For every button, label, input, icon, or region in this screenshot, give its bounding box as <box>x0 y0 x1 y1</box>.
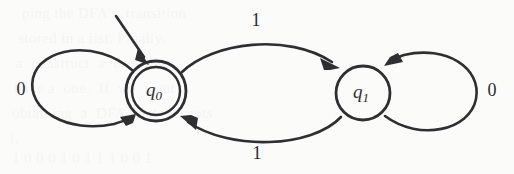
transition-q0-to-q1: 1 <box>182 10 340 72</box>
state-q0-label: q0 <box>146 79 163 103</box>
q1-to-q0-arrowhead <box>180 115 198 130</box>
transition-q1-self-loop: 0 <box>384 53 497 131</box>
q1-to-q0-path <box>188 117 341 142</box>
q0-self-loop-path <box>32 50 133 126</box>
transition-q0-self-loop: 0 <box>17 50 137 126</box>
state-q1-label-sub: 1 <box>363 90 370 105</box>
edge-label-q0-to-q1: 1 <box>252 10 261 30</box>
q0-to-q1-path <box>182 44 332 72</box>
q1-self-loop-path <box>385 53 477 131</box>
automaton-diagram: ping the DFA's transition stored in a li… <box>0 0 514 174</box>
edge-label-q1-self-loop: 0 <box>488 80 497 100</box>
start-arrow <box>116 16 149 65</box>
state-q1-label: q1 <box>353 81 369 105</box>
state-q1-label-base: q <box>353 81 363 102</box>
state-q0-label-base: q <box>146 79 156 100</box>
state-q0: q0 <box>126 61 186 121</box>
edge-label-q0-self-loop: 0 <box>17 79 26 99</box>
transition-q1-to-q0: 1 <box>180 115 341 163</box>
automaton-canvas: 0 1 1 0 q0 <box>0 0 514 174</box>
state-q0-label-sub: 0 <box>156 88 163 103</box>
edge-label-q1-to-q0: 1 <box>253 143 262 163</box>
q0-self-loop-arrowhead <box>120 114 136 126</box>
state-q1: q1 <box>336 66 390 120</box>
